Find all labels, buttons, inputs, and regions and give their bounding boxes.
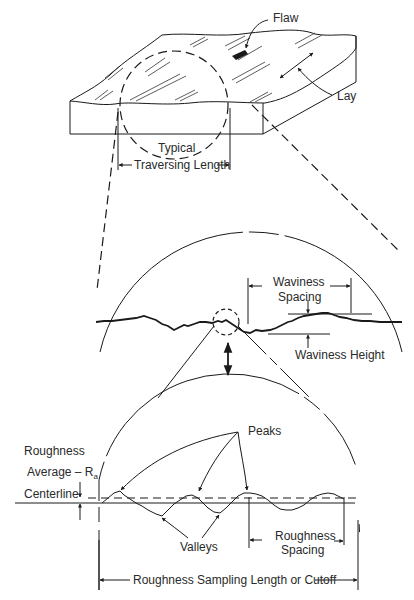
roughness-average-label-1: Roughness [24,444,85,458]
workpiece-block [70,20,356,134]
projection-line-left [97,112,118,290]
lay-label: Lay [337,89,356,103]
waviness-magnifier-arc [100,232,402,352]
surface-hatching [95,33,322,102]
surface-texture-diagram: Flaw Lay Typical Traversing Length Wavin… [0,0,414,600]
typical-label: Typical [158,141,195,155]
waviness-profile [96,313,402,333]
roughness-spacing-label-1: Roughness [275,529,336,543]
waviness-height-label: Waviness Height [295,348,385,362]
projection-line-right [252,105,398,250]
centerline-label: Centerline [24,487,79,501]
peaks-label: Peaks [248,424,281,438]
flaw-label: Flaw [273,11,299,25]
valleys-label: Valleys [180,540,218,554]
roughness-average-label-2: Average – Ra [27,465,99,481]
lay-leader [298,68,332,95]
flaw-leader [246,20,268,48]
roughness-magnifier-arc [99,374,360,590]
waviness-spacing-label-2: Spacing [278,290,321,304]
roughness-spacing-label-2: Spacing [281,543,324,557]
lay-direction-arrow [280,53,313,78]
sampling-length-label: Roughness Sampling Length or Cutoff [133,573,337,587]
traversing-length-label: Traversing Length [134,158,230,172]
waviness-spacing-label-1: Waviness [273,275,325,289]
